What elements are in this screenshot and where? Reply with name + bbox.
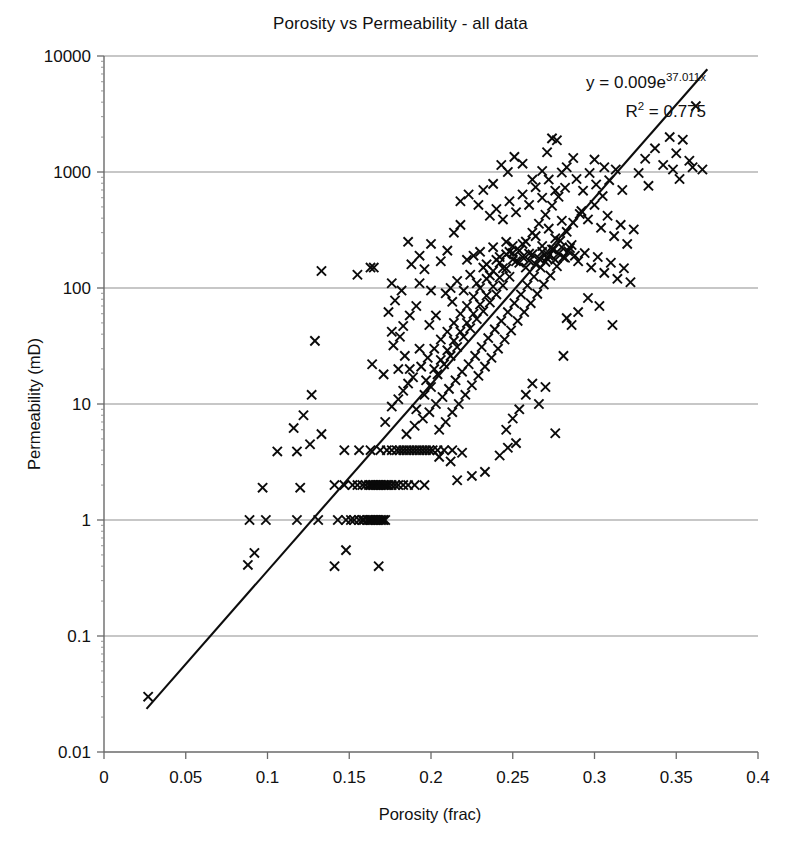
data-point-marker (525, 200, 534, 209)
data-point-marker (510, 152, 519, 161)
data-point-marker (600, 268, 609, 277)
data-point-marker (415, 279, 424, 288)
data-point-marker (557, 216, 566, 225)
data-point-marker (387, 327, 396, 336)
data-point-marker (299, 411, 308, 420)
data-point-marker (420, 480, 429, 489)
data-point-marker (431, 311, 440, 320)
data-point-marker (382, 446, 391, 455)
y-tick-label: 0.1 (67, 627, 91, 646)
data-point-marker (541, 382, 550, 391)
svg-text:R2 = 0.775: R2 = 0.775 (625, 100, 706, 121)
data-point-marker (492, 290, 501, 299)
data-point-marker (289, 423, 298, 432)
data-point-marker (467, 381, 476, 390)
data-point-marker (410, 480, 419, 489)
data-point-marker (430, 344, 439, 353)
data-point-marker (618, 185, 627, 194)
y-tick-label: 0.01 (58, 743, 91, 762)
data-point-marker (381, 417, 390, 426)
y-tick-label: 10 (72, 395, 91, 414)
data-point-marker (503, 443, 512, 452)
data-point-marker (441, 289, 450, 298)
y-tick-label: 1 (82, 511, 91, 530)
data-point-marker (665, 132, 674, 141)
x-tick-label: 0.05 (169, 768, 202, 787)
data-point-marker (330, 480, 339, 489)
data-point-marker (485, 271, 494, 280)
data-point-marker (250, 548, 259, 557)
chart-figure: Porosity vs Permeability - all data 00.0… (0, 0, 801, 847)
data-point-marker (448, 408, 457, 417)
data-point-marker (453, 276, 462, 285)
data-point-marker (502, 425, 511, 434)
data-point-marker (675, 174, 684, 183)
scatter-plot-canvas: 00.050.10.150.20.250.30.350.4 1000010001… (0, 0, 801, 847)
data-point-marker (583, 293, 592, 302)
x-tick-labels-group: 00.050.10.150.20.250.30.350.4 (99, 768, 770, 787)
data-point-marker (489, 282, 498, 291)
data-point-marker (507, 326, 516, 335)
data-point-marker (436, 257, 445, 266)
data-point-marker (546, 271, 555, 280)
data-point-marker (529, 272, 538, 281)
data-point-marker (641, 154, 650, 163)
data-point-marker (538, 193, 547, 202)
data-point-marker (493, 344, 502, 353)
data-point-marker (459, 286, 468, 295)
data-point-marker (487, 353, 496, 362)
data-point-marker (443, 246, 452, 255)
data-point-marker (505, 197, 514, 206)
data-point-marker (387, 279, 396, 288)
data-point-marker (461, 390, 470, 399)
data-point-marker (379, 370, 388, 379)
data-point-marker (317, 266, 326, 275)
data-point-marker (340, 446, 349, 455)
data-point-marker (583, 215, 592, 224)
data-point-marker (623, 239, 632, 248)
data-point-marker (572, 174, 581, 183)
data-point-marker (426, 239, 435, 248)
data-point-marker (510, 299, 519, 308)
x-tick-label: 0.15 (333, 768, 366, 787)
data-point-marker (516, 290, 525, 299)
data-point-marker (590, 155, 599, 164)
data-point-marker (317, 430, 326, 439)
data-point-marker (400, 351, 409, 360)
data-point-marker (518, 190, 527, 199)
data-point-marker (629, 225, 638, 234)
x-tick-label: 0.2 (419, 768, 443, 787)
data-point-marker (498, 281, 507, 290)
data-point-marker (619, 264, 628, 273)
data-point-marker (394, 364, 403, 373)
data-point-marker (353, 480, 362, 489)
data-point-marker (508, 414, 517, 423)
data-point-marker (534, 219, 543, 228)
data-point-marker (448, 297, 457, 306)
data-point-marker (518, 159, 527, 168)
equation-lead-text: y = 0.009e (586, 73, 666, 92)
data-point-marker (608, 320, 617, 329)
data-point-marker (292, 447, 301, 456)
data-point-marker (451, 376, 460, 385)
data-point-marker (600, 163, 609, 172)
data-point-marker (551, 429, 560, 438)
data-point-marker (453, 476, 462, 485)
data-point-marker (310, 336, 319, 345)
data-point-marker (484, 333, 493, 342)
data-point-marker (348, 480, 357, 489)
data-point-marker (394, 395, 403, 404)
data-point-marker (592, 180, 601, 189)
data-point-marker (560, 183, 569, 192)
data-point-marker (511, 208, 520, 217)
data-point-marker (513, 316, 522, 325)
data-point-marker (435, 452, 444, 461)
data-point-marker (273, 447, 282, 456)
data-point-marker (296, 483, 305, 492)
data-point-marker (698, 165, 707, 174)
data-point-marker (474, 371, 483, 380)
trendline-equation-annotation: y = 0.009e37.011x R2 = 0.775 (586, 71, 706, 121)
data-point-marker (443, 327, 452, 336)
data-point-marker (421, 376, 430, 385)
data-point-marker (650, 144, 659, 153)
